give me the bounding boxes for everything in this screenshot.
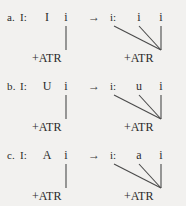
derivation-arrow-icon: → [88,80,100,92]
feature-node: +ATR [124,52,153,64]
derivation-arrow-icon: → [88,11,100,23]
row-letter: b. [7,81,16,92]
association-line [139,95,161,119]
association-line [139,26,161,50]
output-structure: i: i i +ATR [110,6,186,72]
output-structure: i: a i +ATR [110,144,186,206]
input-structure: I: U i +ATR [20,75,98,141]
atr-spreading-figure: a. I: I i +ATR → i: i i +ATR b. [0,0,186,206]
output-structure: i: u i +ATR [110,75,186,141]
row-letter: c. [7,150,15,161]
feature-node: +ATR [124,190,153,202]
derivation-row: c. I: A i +ATR → i: a i +ATR [0,144,186,206]
association-line [114,164,161,188]
input-structure: I: I i +ATR [20,6,98,72]
feature-node: +ATR [32,121,61,133]
association-line [114,26,161,50]
feature-node: +ATR [32,190,61,202]
input-structure: I: A i +ATR [20,144,98,206]
association-line [114,95,161,119]
derivation-row: a. I: I i +ATR → i: i i +ATR [0,6,186,72]
derivation-arrow-icon: → [88,149,100,161]
feature-node: +ATR [124,121,153,133]
association-line [139,164,161,188]
feature-node: +ATR [32,52,61,64]
derivation-row: b. I: U i +ATR → i: u i +ATR [0,75,186,141]
row-letter: a. [7,12,15,23]
